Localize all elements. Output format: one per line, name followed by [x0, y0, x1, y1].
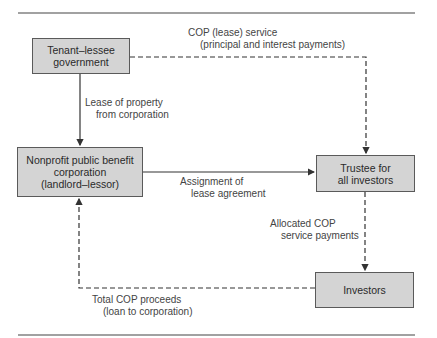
edge-text: (loan to corporation) [92, 306, 193, 318]
edge-text: from corporation [85, 109, 169, 121]
label-allocated: Allocated COP service payments [270, 218, 359, 242]
edge-text: (principal and interest payments) [188, 39, 345, 51]
label-cop-service: COP (lease) service (principal and inter… [188, 27, 345, 51]
node-investors: Investors [315, 272, 414, 308]
node-tenant-lessee-government: Tenant–lesseegovernment [32, 38, 130, 74]
node-text: Trustee for [338, 162, 393, 174]
label-assignment: Assignment of lease agreement [180, 176, 266, 200]
edge-text: Lease of property [85, 97, 169, 109]
edge-text: Allocated COP [270, 218, 359, 230]
label-total-proceeds: Total COP proceeds (loan to corporation) [92, 294, 193, 318]
node-text: Investors [343, 284, 386, 296]
edge-text: COP (lease) service [188, 27, 345, 39]
node-text: corporation [26, 166, 133, 178]
node-text: (landlord–lessor) [26, 178, 133, 190]
node-text: all investors [338, 174, 393, 186]
edge-text: service payments [270, 230, 359, 242]
node-text: Nonprofit public benefit [26, 154, 133, 166]
node-text: Tenant–lessee [47, 44, 115, 56]
node-trustee: Trustee forall investors [316, 155, 415, 192]
node-nonprofit-corporation: Nonprofit public benefitcorporation(land… [17, 147, 143, 197]
label-lease-property: Lease of property from corporation [85, 97, 169, 121]
edge-text: Assignment of [180, 176, 266, 188]
node-text: government [47, 56, 115, 68]
edge-text: Total COP proceeds [92, 294, 193, 306]
edge-total-proceeds [79, 199, 315, 288]
edge-text: lease agreement [180, 188, 266, 200]
